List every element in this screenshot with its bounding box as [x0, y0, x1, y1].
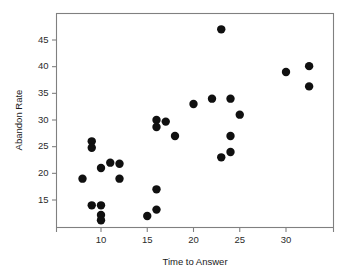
y-tick-label: 25	[38, 140, 49, 151]
y-tick-label: 40	[38, 60, 49, 71]
data-point	[88, 144, 96, 152]
y-tick-label: 20	[38, 167, 49, 178]
data-point	[189, 100, 197, 108]
data-point	[97, 164, 105, 172]
data-point	[162, 117, 170, 125]
x-tick-label: 25	[234, 234, 245, 245]
data-point	[217, 25, 225, 33]
data-point	[88, 201, 96, 209]
data-point	[97, 201, 105, 209]
x-tick-label: 15	[142, 234, 153, 245]
x-tick-label: 20	[188, 234, 199, 245]
data-point	[236, 110, 244, 118]
y-tick-label: 45	[38, 34, 49, 45]
data-point	[97, 216, 105, 224]
data-point	[78, 174, 86, 182]
x-axis-title: Time to Answer	[162, 256, 227, 267]
data-point	[226, 148, 234, 156]
plot-svg: 15202530354045 1015202530 Time to Answer…	[0, 0, 348, 273]
y-axis-title: Abandon Rate	[13, 90, 24, 151]
data-point	[208, 94, 216, 102]
data-point	[305, 82, 313, 90]
x-tick-label: 30	[281, 234, 292, 245]
data-point	[152, 205, 160, 213]
data-point	[282, 68, 290, 76]
data-point	[217, 153, 225, 161]
data-point	[143, 212, 151, 220]
y-tick-label: 30	[38, 114, 49, 125]
data-point	[152, 123, 160, 131]
data-point	[106, 158, 114, 166]
y-tick-label: 35	[38, 87, 49, 98]
y-tick-label: 15	[38, 194, 49, 205]
data-point	[305, 62, 313, 70]
data-point	[226, 132, 234, 140]
scatter-chart: 15202530354045 1015202530 Time to Answer…	[0, 0, 348, 273]
data-point	[171, 132, 179, 140]
data-point	[115, 160, 123, 168]
data-point	[152, 185, 160, 193]
data-point	[115, 174, 123, 182]
x-tick-label: 10	[96, 234, 107, 245]
data-point	[226, 94, 234, 102]
